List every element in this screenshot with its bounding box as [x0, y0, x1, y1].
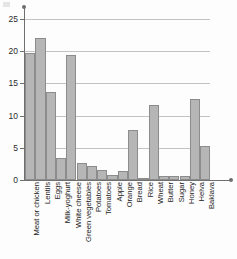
bar[interactable]: [180, 176, 190, 180]
x-tick-label: Lentils: [44, 182, 52, 204]
bar[interactable]: [35, 38, 45, 180]
y-tick-label: 10: [9, 112, 18, 121]
x-tick-label: Potatoes: [95, 182, 103, 212]
x-tick-label: Bread: [136, 182, 144, 202]
bar[interactable]: [25, 53, 35, 180]
x-tick-label: Butter: [167, 182, 175, 202]
bar[interactable]: [200, 146, 210, 180]
x-tick-label: Helva: [198, 182, 206, 201]
bar-chart: 0510152025 Meat or chickenLentilsEggsMil…: [0, 0, 237, 259]
x-tick-label: Meat or chicken: [33, 182, 41, 236]
x-tick-label: Wheat: [157, 182, 165, 204]
bar[interactable]: [46, 92, 56, 180]
x-tick-label: White cheese: [75, 182, 83, 228]
x-tick-label: Eggs: [54, 182, 62, 199]
x-tick-label: Rice: [147, 182, 155, 197]
x-axis-arrow-cap: [229, 178, 233, 182]
x-tick-label: Baklava: [208, 182, 216, 209]
bar-series: [25, 0, 211, 259]
x-tick-label: Honey: [188, 182, 196, 204]
bar[interactable]: [190, 99, 200, 180]
x-tick-label: Tomatoes: [105, 182, 113, 215]
bar[interactable]: [149, 105, 159, 180]
y-tick-label: 15: [9, 79, 18, 88]
y-tick-label: 25: [9, 15, 18, 24]
bar[interactable]: [118, 171, 128, 180]
y-tick-label: 0: [13, 176, 18, 185]
bar[interactable]: [97, 170, 107, 180]
bar[interactable]: [87, 166, 97, 180]
bar[interactable]: [56, 158, 66, 180]
x-tick-label: Milk-yoghurt: [64, 182, 72, 223]
x-tick-label: Sugar: [178, 182, 186, 202]
bar[interactable]: [66, 55, 76, 180]
bar[interactable]: [169, 176, 179, 180]
x-tick-label: Apple: [116, 182, 124, 201]
y-tick-label: 5: [13, 144, 18, 153]
plot-area: 0510152025 Meat or chickenLentilsEggsMil…: [0, 0, 237, 259]
bar[interactable]: [107, 175, 117, 180]
x-tick-label: Green vegetables: [85, 182, 93, 242]
bar[interactable]: [159, 176, 169, 180]
x-tick-label: Orange: [126, 182, 134, 207]
bar[interactable]: [138, 178, 148, 180]
bar[interactable]: [128, 130, 138, 180]
y-tick-label: 20: [9, 47, 18, 56]
bar[interactable]: [77, 163, 87, 180]
